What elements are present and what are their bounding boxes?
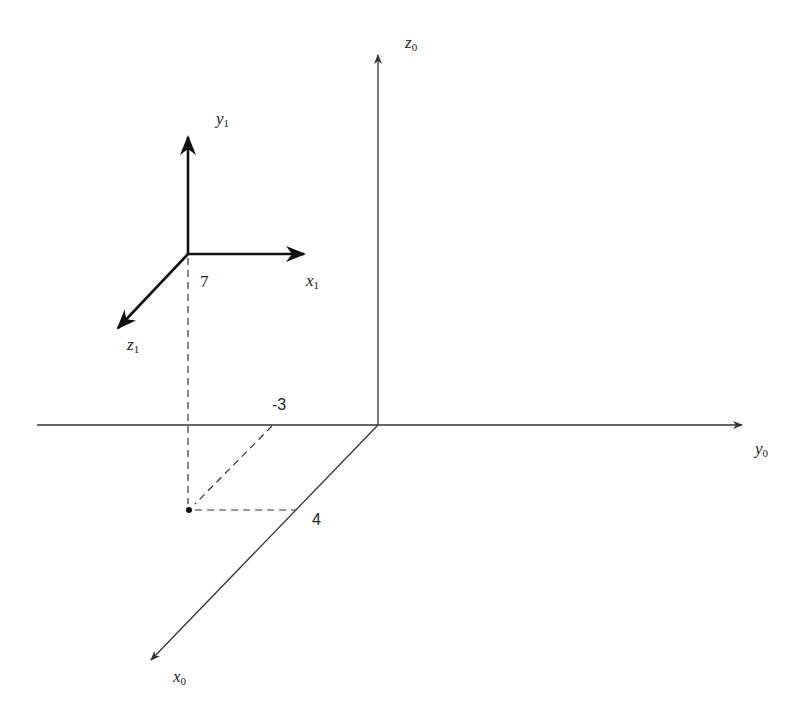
coordinate-frames-diagram: z0 y0 x0 y1 x1 z1 7 -3 4 xyxy=(0,0,807,710)
x0-axis xyxy=(151,425,378,660)
x0-label: x0 xyxy=(173,668,186,687)
diagram-canvas xyxy=(0,0,807,710)
y1-label: y1 xyxy=(216,110,229,129)
y-value-label: -3 xyxy=(272,397,286,413)
y0-label: y0 xyxy=(755,440,768,459)
projected-point xyxy=(186,507,192,513)
z0-label: z0 xyxy=(405,34,417,53)
x-value-label: 4 xyxy=(312,512,321,528)
z-value-label: 7 xyxy=(200,273,209,290)
z1-axis xyxy=(118,254,188,328)
projection-diagonal-dashed xyxy=(195,426,272,504)
x1-label: x1 xyxy=(306,272,319,291)
z1-label: z1 xyxy=(127,336,139,355)
